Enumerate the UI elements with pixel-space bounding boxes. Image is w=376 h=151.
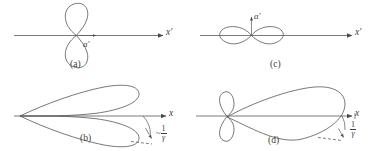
panel-a-acceleration-label: a′ [83,40,89,49]
panel-b-tag: (b) [80,134,91,144]
panel-d-angle-arc [342,116,345,130]
panel-c-tag: (c) [270,60,281,70]
panel-a-tag: (a) [70,60,81,70]
panel-d-back-upper-lobe [220,92,235,117]
panel-b-angle-dashed-line [131,142,152,145]
panel-b-axis-label: x [169,109,173,119]
panel-a-axis-label: x′ [166,28,172,38]
panel-d-angle-label: 1 γ [350,121,356,138]
panel-d-tag: (d) [268,136,279,146]
panel-b-angle-label: ~ 1 γ [156,125,167,142]
panel-c-axis-label: x′ [355,28,361,38]
panel-a-upper-lobe [65,3,87,35]
panel-d-main-lobe [227,87,345,140]
panel-c-acceleration-label: a′ [254,12,260,21]
panel-b-upper-lobe [20,85,139,116]
figure-vector-graphics [0,0,376,151]
panel-b-angle-arc [143,116,151,135]
panel-c-graphics [200,17,352,44]
panel-d-angle-denominator: γ [350,129,356,138]
panel-d-angle-numerator: 1 [350,121,356,129]
panel-b-angle-fraction: 1 γ [161,125,167,142]
panel-a-graphics [14,3,163,67]
panel-d-graphics [196,87,355,141]
panel-d-axis-label: x [355,109,359,119]
radiation-pattern-figure: x′ a′ (a) x′ a′ (c) x (b) ~ 1 γ x (d) 1 … [0,0,376,151]
panel-d-back-lower-lobe [220,117,235,142]
panel-d-angle-dashed-line [318,138,342,141]
panel-d-angle-arrow [339,129,344,138]
panel-b-angle-numerator: 1 [161,125,167,133]
panel-d-angle-fraction: 1 γ [350,121,356,138]
panel-b-angle-denominator: γ [161,133,167,142]
